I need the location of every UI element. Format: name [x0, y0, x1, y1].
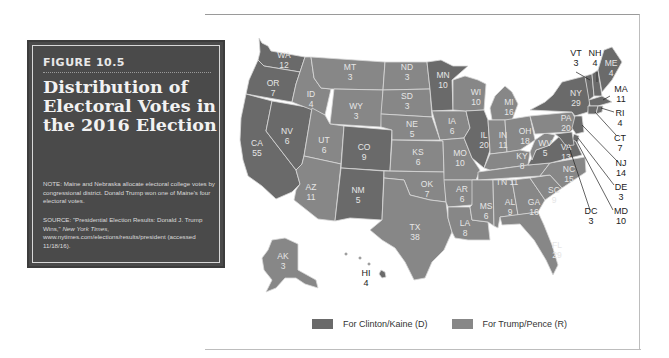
legend-swatch-clinton	[312, 319, 333, 329]
callout-RI: RI4	[616, 108, 625, 128]
us-electoral-map: WA12 OR7 CA55 NV6 ID4 MT3 WY3 UT6 AZ11 C…	[0, 0, 669, 358]
label-TN: TN 11	[496, 177, 519, 187]
callout-DE: DE3	[615, 182, 628, 202]
state-AZ	[294, 156, 341, 221]
callout-NJ: NJ14	[616, 158, 627, 178]
label-PA: PA20	[561, 113, 572, 133]
label-NC: NC15	[563, 164, 575, 184]
label-VA: VA13	[561, 142, 572, 162]
legend-item-clinton: For Clinton/Kaine (D)	[312, 319, 428, 329]
label-IN: IN11	[499, 130, 508, 150]
state-HI-islets	[345, 253, 348, 256]
callout-CT: CT7	[614, 133, 626, 153]
state-HI-islets	[368, 263, 371, 266]
label-IL: IL20	[479, 130, 489, 150]
callout-VT: VT3	[570, 48, 582, 68]
callout-MA: MA11	[614, 84, 628, 104]
legend-label-clinton: For Clinton/Kaine (D)	[343, 319, 428, 329]
label-AZ: AZ11	[306, 182, 317, 202]
callout-DC: DC3	[585, 206, 598, 226]
label-MN: MN10	[436, 70, 449, 90]
state-HI	[379, 270, 386, 278]
state-FL	[500, 212, 558, 275]
label-WI: WI10	[471, 87, 481, 107]
state-HI-islets	[359, 257, 362, 260]
label-OH: OH18	[519, 126, 532, 146]
label-FL: FL29	[552, 240, 562, 260]
label-NY: NY29	[570, 88, 582, 108]
label-CA: CA55	[251, 138, 263, 158]
legend-swatch-trump	[452, 319, 473, 329]
map-legend: For Clinton/Kaine (D) For Trump/Pence (R…	[312, 319, 591, 329]
callout-HI: HI4	[362, 268, 371, 288]
legend-item-trump: For Trump/Pence (R)	[452, 319, 568, 329]
label-GA: GA16	[528, 197, 541, 217]
label-TX: TX38	[410, 222, 421, 242]
legend-label-trump: For Trump/Pence (R)	[483, 319, 568, 329]
callout-MD: MD10	[614, 206, 628, 226]
state-AK	[262, 238, 318, 292]
label-MI: MI16	[504, 97, 514, 117]
